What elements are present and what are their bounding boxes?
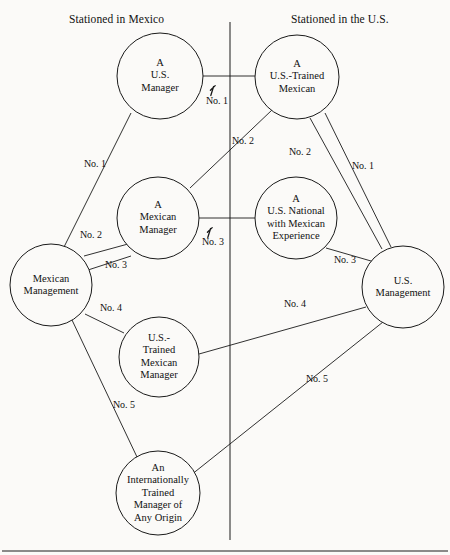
node-us-management[interactable] — [362, 246, 444, 328]
edge-label-e2: No. 1 — [84, 158, 106, 169]
edge-label-e6: No. 2 — [80, 229, 102, 240]
edge-label-e5: No. 1 — [352, 160, 374, 171]
edge-e6 — [84, 244, 128, 256]
column-header-left: Stationed in Mexico — [69, 13, 164, 25]
diagram-canvas: Stationed in MexicoStationed in the U.S.… — [0, 0, 450, 555]
edge-e13 — [191, 322, 383, 475]
node-intl-trained-manager[interactable] — [116, 451, 200, 535]
column-header-right: Stationed in the U.S. — [291, 13, 389, 25]
edge-e3 — [190, 110, 272, 188]
edge-e10 — [85, 314, 124, 333]
edges-layer — [64, 76, 391, 475]
edge-label-e10: No. 4 — [100, 302, 122, 313]
edge-label-e9: No. 3 — [334, 254, 356, 265]
node-us-national-mexican-exp[interactable] — [255, 177, 337, 259]
node-mexican-management[interactable] — [10, 244, 92, 326]
edge-label-e3: No. 2 — [232, 135, 254, 146]
edge-label-e13: No. 5 — [306, 373, 328, 384]
node-mexican-manager[interactable] — [117, 177, 199, 259]
edge-label-e8: No. 3 — [202, 236, 224, 247]
node-us-trained-mexican-mgr[interactable] — [119, 317, 199, 397]
edge-label-e4: No. 2 — [289, 146, 311, 157]
edge-label-e7: No. 3 — [105, 259, 127, 270]
edge-label-e1: No. 1 — [206, 95, 228, 106]
node-us-manager[interactable] — [117, 33, 203, 119]
edge-label-e12: No. 5 — [113, 399, 135, 410]
node-us-trained-mexican[interactable] — [255, 35, 339, 119]
edge-e11 — [199, 307, 366, 354]
edge-label-e11: No. 4 — [284, 298, 306, 309]
